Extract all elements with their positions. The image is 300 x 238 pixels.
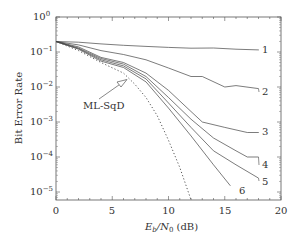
- x-tick-5: 5: [109, 205, 115, 216]
- series-6: [56, 42, 230, 186]
- x-tick-labels: 0 5 10 15 20: [53, 205, 288, 216]
- x-tick-15: 15: [219, 205, 232, 216]
- y-tick-0: 100: [33, 10, 50, 22]
- x-tick-0: 0: [53, 205, 59, 216]
- ber-chart: 100 10−1 10−2 10−3 10−4 10−5 0 5 10 15 2…: [0, 0, 300, 238]
- curve-labels: 1 2 3 4 5 6: [239, 44, 268, 196]
- curve-label-5: 5: [262, 176, 268, 187]
- curve-label-4: 4: [262, 159, 268, 170]
- curve-label-1: 1: [262, 44, 268, 55]
- curve-label-3: 3: [262, 126, 268, 137]
- y-tick-1: 10−1: [30, 45, 53, 57]
- x-tick-10: 10: [162, 205, 175, 216]
- series-1: [56, 42, 259, 50]
- series-group: [56, 42, 259, 200]
- ml-sqd-annotation: ML-SqD: [83, 100, 125, 111]
- annotation-arrow: [99, 80, 127, 100]
- x-axis-label: Eb/N0 (dB): [144, 221, 198, 234]
- y-tick-3: 10−3: [30, 115, 53, 127]
- x-tick-20: 20: [275, 205, 288, 216]
- y-tick-5: 10−5: [30, 185, 53, 197]
- y-tick-4: 10−4: [30, 150, 54, 162]
- y-axis-label: Bit Error Rate: [13, 72, 24, 144]
- curve-label-6: 6: [239, 185, 245, 196]
- y-tick-labels: 100 10−1 10−2 10−3 10−4 10−5: [30, 10, 54, 197]
- curve-label-2: 2: [262, 86, 268, 97]
- y-tick-2: 10−2: [30, 80, 53, 92]
- series-ml-sqd: [56, 42, 191, 200]
